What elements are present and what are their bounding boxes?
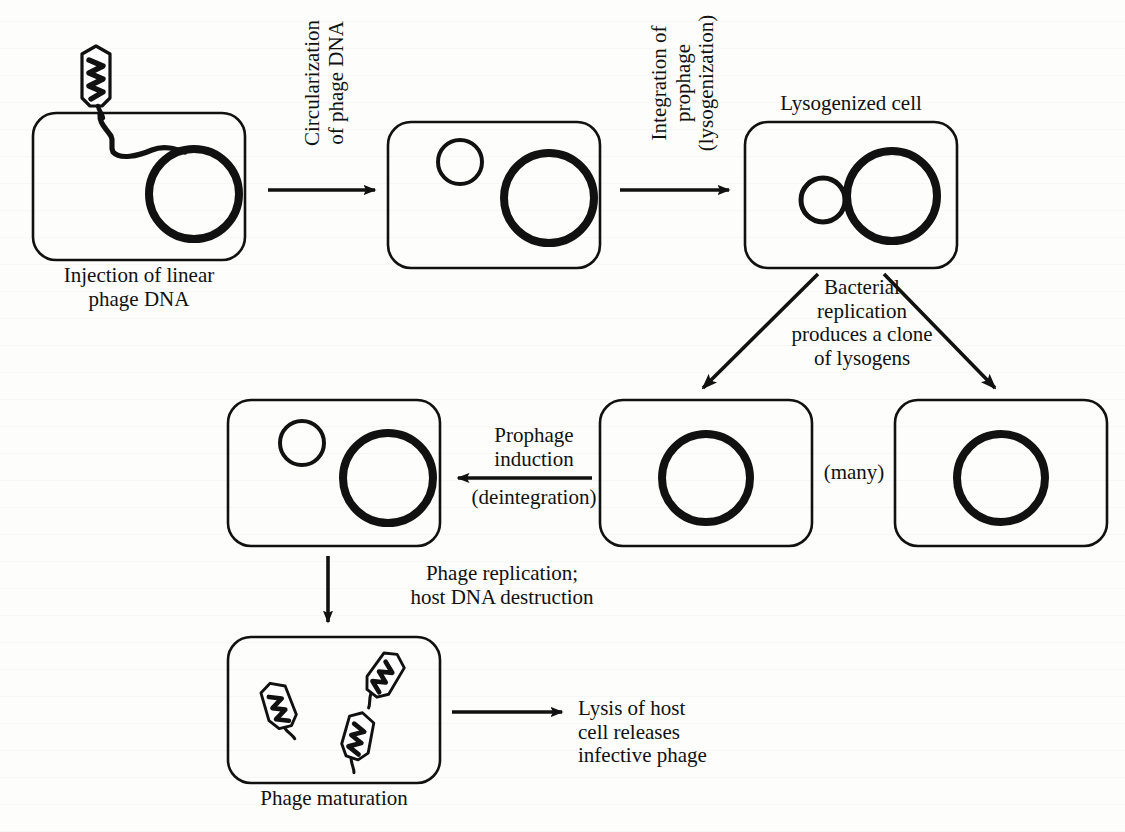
bacterial-chromosome-with-prophage xyxy=(957,434,1045,522)
bacterial-chromosome xyxy=(847,151,937,241)
arrow-label-integration: Integration of prophage (lysogenization) xyxy=(648,0,719,178)
bacterial-chromosome xyxy=(149,149,239,239)
mature-phage-left xyxy=(258,679,303,745)
bacterial-chromosome-with-prophage xyxy=(662,434,750,522)
bacterial-chromosome xyxy=(343,433,433,523)
cell-circularized xyxy=(388,122,600,268)
lysogenic-cycle-diagram: Injection of linear phage DNA Circulariz… xyxy=(0,0,1125,832)
caption-lysogenized-cell: Lysogenized cell xyxy=(745,92,957,116)
arrow-label-lysis: Lysis of host cell releases infective ph… xyxy=(578,697,838,768)
cell-after-prophage-induction xyxy=(228,400,440,546)
phage-injecting xyxy=(82,46,110,118)
caption-phage-maturation: Phage maturation xyxy=(216,787,452,811)
linear-phage-dna-strand xyxy=(100,113,185,156)
bacterial-chromosome xyxy=(504,153,594,243)
caption-injection: Injection of linear phage DNA xyxy=(33,264,245,311)
excised-phage-dna-circle xyxy=(280,421,324,465)
phage-head-outline xyxy=(258,679,299,732)
mature-phage-bottom xyxy=(336,710,378,775)
phage-dna-circle-small xyxy=(438,140,482,184)
cell-lysogen-clone-right xyxy=(895,400,1107,546)
arrow-label-circularization: Circularization of phage DNA xyxy=(301,0,348,178)
arrow-label-prophage-induction: Prophage induction xyxy=(460,424,608,471)
phage-tail xyxy=(285,726,295,741)
phage-head-outline xyxy=(360,647,409,701)
cell-lysogenized xyxy=(745,122,957,268)
arrow-label-phage-replication: Phage replication; host DNA destruction xyxy=(352,562,652,609)
arrow-label-bacterial-replication: Bacterial replication produces a clone o… xyxy=(766,276,958,371)
arrow-label-deintegration: (deintegration) xyxy=(446,486,622,510)
prophage-circle-small xyxy=(801,178,845,222)
cell-injection xyxy=(33,113,245,260)
cell-phage-maturation xyxy=(228,637,440,783)
cell-lysogen-clone-left xyxy=(600,400,812,546)
label-many: (many) xyxy=(812,461,896,485)
diagram-vector-layer xyxy=(0,0,1125,832)
mature-phage-top-right xyxy=(353,647,410,713)
